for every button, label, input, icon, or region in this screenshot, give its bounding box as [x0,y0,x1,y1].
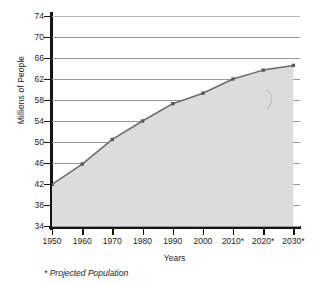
x-tick-2030star [293,229,294,235]
y-tick-label-74: 74 [20,11,44,21]
y-tick-label-58: 58 [20,95,44,105]
data-point-2020star [262,68,265,71]
y-tick-74 [44,16,50,17]
y-tick-66 [44,58,50,59]
y-tick-label-46: 46 [20,158,44,168]
y-tick-label-38: 38 [20,200,44,210]
population-area-chart: Millions of People 343842465054586266707… [0,0,321,285]
x-tick-1950 [52,229,53,235]
x-axis-title-text: Years [164,253,185,263]
y-tick-34 [44,226,50,227]
y-tick-label-34: 34 [20,221,44,231]
plot-area [52,16,300,226]
pen-mark-artifact [262,88,276,110]
data-point-1950 [52,183,54,186]
data-point-2010star [231,77,234,80]
y-tick-50 [44,142,50,143]
y-tick-58 [44,100,50,101]
data-point-1990 [171,102,174,105]
y-tick-42 [44,184,50,185]
y-tick-54 [44,121,50,122]
data-point-2030star [292,64,295,67]
y-tick-label-66: 66 [20,53,44,63]
data-point-1960 [81,162,84,165]
x-tick-label-2030star: 2030* [273,236,313,246]
chart-footnote: * Projected Population [44,268,128,278]
x-axis-title: Years [0,253,321,263]
y-tick-46 [44,163,50,164]
data-point-1980 [141,119,144,122]
y-axis-title: Millions of People [16,25,26,155]
y-tick-70 [44,37,50,38]
x-tick-1990 [173,229,174,235]
area-fill [52,65,293,226]
y-tick-label-70: 70 [20,32,44,42]
data-point-2000 [201,92,204,95]
y-tick-label-54: 54 [20,116,44,126]
x-tick-1970 [112,229,113,235]
x-tick-1980 [143,229,144,235]
x-tick-2000 [203,229,204,235]
data-point-1970 [111,138,114,141]
gridline-34 [52,226,300,227]
x-tick-2020star [263,229,264,235]
area-series [52,16,300,226]
y-tick-38 [44,205,50,206]
y-tick-62 [44,79,50,80]
x-tick-1960 [82,229,83,235]
y-tick-label-50: 50 [20,137,44,147]
y-tick-label-42: 42 [20,179,44,189]
x-tick-2010star [233,229,234,235]
y-tick-label-62: 62 [20,74,44,84]
